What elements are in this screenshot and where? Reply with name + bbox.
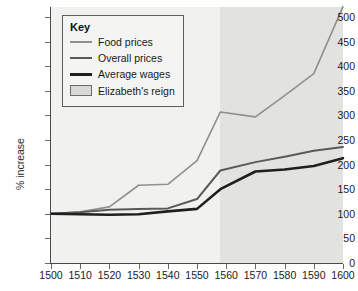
y-tick-label-150: 150	[312, 184, 355, 194]
legend-swatch-food-prices	[70, 41, 92, 43]
x-tick-1540	[168, 264, 169, 269]
x-tick-1520	[109, 264, 110, 269]
y-axis-line	[50, 7, 51, 263]
y-tick-200	[45, 165, 50, 166]
y-tick-50	[45, 238, 50, 239]
y-axis-title: % increase	[14, 138, 26, 190]
legend-label-overall-prices: Overall prices	[98, 53, 162, 64]
y-tick-250	[45, 140, 50, 141]
x-tick-label-1590: 1590	[299, 270, 329, 281]
x-tick-label-1560: 1560	[211, 270, 241, 281]
x-tick-1560	[226, 264, 227, 269]
x-tick-label-1520: 1520	[94, 270, 124, 281]
x-tick-label-1580: 1580	[270, 270, 300, 281]
y-tick-label-250: 250	[312, 135, 355, 145]
x-tick-1580	[285, 264, 286, 269]
x-tick-1530	[139, 264, 140, 269]
y-tick-label-450: 450	[312, 37, 355, 47]
y-tick-100	[45, 214, 50, 215]
y-tick-500	[45, 17, 50, 18]
x-tick-label-1600: 1600	[328, 270, 358, 281]
legend-swatch-average-wages	[70, 73, 92, 76]
y-tick-300	[45, 115, 50, 116]
series-line-overall-prices	[51, 147, 343, 214]
y-tick-150	[45, 189, 50, 190]
y-tick-label-400: 400	[312, 61, 355, 71]
x-tick-label-1530: 1530	[124, 270, 154, 281]
x-tick-label-1540: 1540	[153, 270, 183, 281]
y-tick-label-200: 200	[312, 160, 355, 170]
y-tick-label-50: 50	[312, 233, 355, 243]
x-tick-1600	[343, 264, 344, 269]
x-tick-label-1570: 1570	[240, 270, 270, 281]
y-tick-400	[45, 66, 50, 67]
x-tick-1590	[314, 264, 315, 269]
x-tick-1570	[255, 264, 256, 269]
legend-swatch-overall-prices	[70, 57, 92, 59]
legend-label-elizabeths-reign: Elizabeth's reign	[98, 86, 175, 97]
x-tick-label-1550: 1550	[182, 270, 212, 281]
y-tick-label-350: 350	[312, 86, 355, 96]
y-tick-label-300: 300	[312, 110, 355, 120]
y-tick-350	[45, 91, 50, 92]
y-tick-0	[45, 263, 50, 264]
x-tick-1510	[80, 264, 81, 269]
legend-swatch-elizabeths-reign	[70, 85, 92, 96]
legend-label-average-wages: Average wages	[98, 69, 170, 80]
x-tick-1550	[197, 264, 198, 269]
x-tick-label-1510: 1510	[65, 270, 95, 281]
legend-label-food-prices: Food prices	[98, 37, 153, 48]
y-tick-label-100: 100	[312, 209, 355, 219]
y-tick-450	[45, 42, 50, 43]
x-tick-1500	[51, 264, 52, 269]
x-tick-label-1500: 1500	[36, 270, 66, 281]
series-line-average-wages	[51, 158, 343, 215]
legend-title: Key	[70, 22, 90, 33]
y-tick-label-0: 0	[312, 258, 355, 268]
y-tick-label-500: 500	[312, 12, 355, 22]
